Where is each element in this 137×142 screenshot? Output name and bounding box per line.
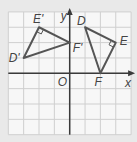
origin-label: O [58, 75, 67, 89]
x-axis-label: x [124, 76, 132, 90]
vertex-label: F' [73, 41, 83, 55]
vertex-label: E [120, 34, 129, 48]
vertex-label: E' [33, 12, 44, 26]
y-axis-label: y [60, 9, 68, 23]
vertex-label: F [94, 75, 102, 89]
coordinate-plane-figure: yxODEFD'E'F' [0, 0, 137, 142]
vertex-label: D [77, 14, 86, 28]
vertex-label: D' [9, 51, 21, 65]
coordinate-plane: yxODEFD'E'F' [0, 0, 137, 142]
